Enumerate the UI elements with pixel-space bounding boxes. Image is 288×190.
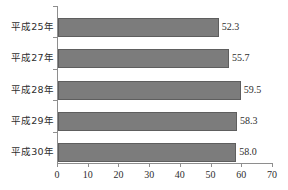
- bar-value-label: 55.7: [232, 52, 250, 64]
- bar: [58, 18, 219, 37]
- x-axis-tick-label: 40: [175, 169, 185, 181]
- x-axis-tick-label: 20: [113, 169, 123, 181]
- x-axis-tick: [241, 163, 242, 167]
- x-axis-tick: [149, 163, 150, 167]
- x-axis-tick-label: 70: [267, 169, 277, 181]
- bar: [58, 143, 236, 162]
- bar: [58, 112, 237, 131]
- bar-value-label: 58.3: [240, 115, 258, 127]
- category-label: 平成29年: [11, 115, 54, 127]
- bar-value-label: 58.0: [239, 146, 257, 158]
- y-axis-tick: [53, 100, 57, 101]
- y-axis-tick: [53, 37, 57, 38]
- x-axis-tick: [57, 163, 58, 167]
- x-axis-tick: [211, 163, 212, 167]
- bar-chart: 平成25年 平成27年 平成28年 平成29年 平成30年 52.3 55.7 …: [0, 0, 288, 190]
- category-label: 平成30年: [11, 146, 54, 158]
- bar-value-label: 59.5: [244, 84, 262, 96]
- bar-value-label: 52.3: [222, 21, 240, 33]
- x-axis-tick-label: 60: [236, 169, 246, 181]
- x-axis-tick-label: 50: [206, 169, 216, 181]
- category-label: 平成25年: [11, 21, 54, 33]
- x-axis-tick: [118, 163, 119, 167]
- x-axis-tick-label: 0: [55, 169, 60, 181]
- x-axis-tick: [272, 163, 273, 167]
- y-axis-tick: [53, 132, 57, 133]
- y-axis-tick: [53, 69, 57, 70]
- bar: [58, 49, 229, 68]
- y-axis-tick: [53, 6, 57, 7]
- category-label: 平成27年: [11, 52, 54, 64]
- bar: [58, 81, 241, 100]
- x-axis-tick-label: 10: [83, 169, 93, 181]
- x-axis-tick: [88, 163, 89, 167]
- x-axis-tick-label: 30: [144, 169, 154, 181]
- x-axis-tick: [180, 163, 181, 167]
- category-label: 平成28年: [11, 84, 54, 96]
